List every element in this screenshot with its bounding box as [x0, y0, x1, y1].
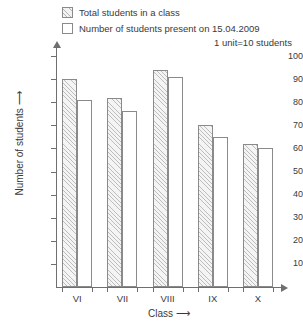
y-axis-line	[56, 47, 57, 288]
bar-VIII-series2	[168, 77, 183, 287]
x-axis-tick	[137, 287, 138, 292]
x-axis-tick	[153, 287, 154, 292]
bar-chart: Total students in a class Number of stud…	[0, 0, 303, 325]
y-axis-tick	[51, 102, 57, 103]
x-axis-tick	[183, 287, 184, 292]
bar-VIII-series1	[153, 70, 168, 287]
y-axis-tick-label: 70	[255, 121, 303, 130]
y-axis-tick-label: 100	[255, 52, 303, 61]
bar-VII-series1	[107, 98, 122, 287]
x-axis-arrow-icon	[281, 284, 288, 292]
x-axis-tick	[92, 287, 93, 292]
x-axis-label-VIII: VIII	[148, 294, 188, 304]
bar-IX-series1	[198, 125, 213, 287]
x-axis-label-VI: VI	[57, 294, 97, 304]
bar-X-series2	[258, 148, 273, 287]
y-axis-tick	[51, 148, 57, 149]
bar-VII-series2	[122, 111, 137, 287]
y-axis-tick-label: 80	[255, 98, 303, 107]
bar-IX-series2	[213, 137, 228, 287]
y-axis-tick	[51, 56, 57, 57]
y-axis-tick	[51, 172, 57, 173]
x-axis-tick	[107, 287, 108, 292]
x-axis-tick	[243, 287, 244, 292]
x-axis-tick	[228, 287, 229, 292]
x-axis-tick	[62, 287, 63, 292]
x-axis-line	[56, 287, 282, 288]
y-axis-tick	[51, 125, 57, 126]
y-axis-tick	[51, 264, 57, 265]
x-axis-label-VII: VII	[102, 294, 142, 304]
x-axis-label-X: X	[238, 294, 278, 304]
plot-area: 100908070605040302010 VIVIIVIIIIXX Numbe…	[0, 0, 303, 325]
y-axis-tick	[51, 218, 57, 219]
x-axis-tick	[273, 287, 274, 292]
x-axis-title: Class ⟶	[56, 308, 282, 319]
y-axis-title: Number of students ⟶	[14, 69, 25, 219]
bar-VI-series1	[62, 79, 77, 287]
x-axis-tick	[198, 287, 199, 292]
y-axis-tick-label: 90	[255, 75, 303, 84]
y-axis-tick	[51, 79, 57, 80]
x-axis-label-IX: IX	[193, 294, 233, 304]
y-axis-tick	[51, 195, 57, 196]
y-axis-tick	[51, 241, 57, 242]
bar-VI-series2	[77, 100, 92, 287]
bar-X-series1	[243, 144, 258, 287]
